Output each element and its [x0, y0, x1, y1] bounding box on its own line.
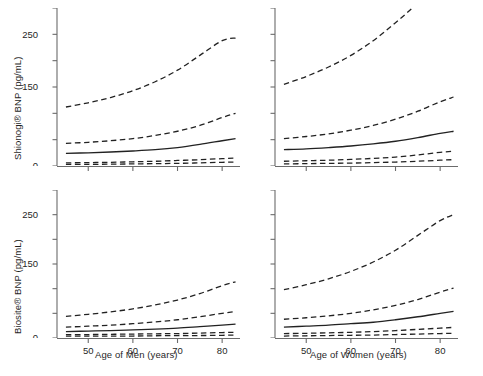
caption-strip: [0, 368, 483, 376]
series-line-2: [284, 327, 454, 333]
plot-area-shionogi-women: [275, 8, 458, 166]
y-tick-150: 150: [22, 81, 38, 92]
x-ticklabels-men: 50607080: [57, 344, 240, 358]
y-axis-biosite-men: [38, 190, 58, 338]
series-line-3: [66, 139, 236, 154]
series-line-5: [66, 38, 236, 107]
y-tick-0: 0: [33, 332, 38, 338]
panel-shionogi-women: [275, 8, 458, 166]
x-tick-50: 50: [83, 345, 94, 356]
series-line-5: [284, 8, 454, 84]
plot-area-biosite-women: [275, 190, 458, 338]
series-line-2: [66, 332, 236, 334]
y-axis-title-shionogi: Shionogi® BNP (pg/mL): [12, 57, 23, 160]
y-axis-shionogi-men: [38, 8, 58, 166]
y-axis-shionogi-women: [256, 8, 276, 166]
figure-root: 0150250 Shionogi® BNP (pg/mL) Age of Men…: [0, 0, 483, 376]
x-axis-shionogi-men: [57, 166, 240, 174]
series-line-5: [284, 215, 454, 290]
x-axis-shionogi-women: [275, 166, 458, 174]
y-axis-title-biosite: Biosite® BNP (pg/mL): [12, 239, 23, 334]
x-tick-60: 60: [128, 345, 139, 356]
plot-area-shionogi-men: [57, 8, 240, 166]
y-tick-250: 250: [22, 29, 38, 40]
series-line-3: [284, 311, 454, 327]
x-tick-80: 80: [435, 345, 446, 356]
series-line-1: [66, 335, 236, 336]
panel-biosite-men: [57, 190, 240, 338]
series-line-3: [66, 324, 236, 331]
series-line-1: [284, 160, 454, 164]
series-line-5: [66, 282, 236, 317]
series-line-3: [284, 131, 454, 149]
x-tick-70: 70: [172, 345, 183, 356]
x-tick-80: 80: [217, 345, 228, 356]
series-line-4: [66, 113, 236, 143]
y-tick-150: 150: [22, 258, 38, 269]
y-tick-0: 0: [33, 160, 38, 166]
panel-biosite-women: [275, 190, 458, 338]
series-line-4: [284, 97, 454, 139]
series-line-4: [66, 311, 236, 327]
series-line-2: [284, 151, 454, 161]
plot-area-biosite-men: [57, 190, 240, 338]
y-axis-biosite-women: [256, 190, 276, 338]
y-tick-250: 250: [22, 209, 38, 220]
x-axis-title-women-bottom: Age of Women (years): [310, 349, 407, 360]
series-line-1: [66, 162, 236, 164]
series-line-1: [284, 333, 454, 336]
panel-shionogi-men: [57, 8, 240, 166]
